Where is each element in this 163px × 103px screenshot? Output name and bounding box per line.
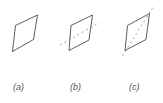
figure-a <box>13 15 38 52</box>
dashed-midline-b <box>60 23 100 46</box>
parallelogram-c <box>125 14 150 51</box>
figure-c <box>123 6 155 57</box>
label-b: (b) <box>70 82 81 92</box>
parallelogram-a <box>13 15 38 52</box>
figure-b <box>60 15 100 51</box>
label-a: (a) <box>13 82 24 92</box>
parallelogram-b <box>69 15 93 51</box>
label-c: (c) <box>129 82 140 92</box>
